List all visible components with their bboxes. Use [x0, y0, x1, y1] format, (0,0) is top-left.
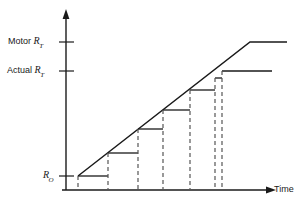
y-axis-label-motor: Motor RT: [8, 36, 44, 49]
resistance-vs-time-figure: Motor RT Actual RT RO Time: [0, 0, 305, 215]
actual-label-prefix: Actual: [7, 65, 32, 75]
initial-label-subscript: O: [49, 176, 54, 184]
y-axis-arrowhead-icon: [63, 9, 70, 19]
y-axis-label-actual: Actual RT: [7, 65, 45, 78]
x-axis-label-time: Time: [274, 185, 294, 194]
y-axis-label-initial-resistance: RO: [43, 170, 54, 183]
motor-label-prefix: Motor: [8, 36, 31, 46]
motor-ramp-line: [78, 42, 287, 176]
time-label-text: Time: [274, 184, 294, 194]
motor-label-subscript: T: [39, 42, 43, 50]
actual-label-subscript: T: [40, 71, 44, 79]
